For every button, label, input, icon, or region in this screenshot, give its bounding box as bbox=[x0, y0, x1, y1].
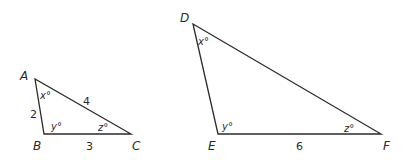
side-length-ab: 2 bbox=[30, 108, 37, 121]
triangle-abc: A B C x° y° z° 2 4 3 bbox=[19, 69, 141, 153]
angle-label-a: x° bbox=[39, 90, 51, 101]
vertex-label-e: E bbox=[208, 139, 216, 153]
angle-label-b: y° bbox=[50, 121, 62, 132]
vertex-label-b: B bbox=[33, 139, 41, 153]
diagram: A B C x° y° z° 2 4 3 D E F x° y° z° 6 bbox=[0, 0, 412, 160]
triangle-def-outline bbox=[193, 24, 381, 134]
angle-label-f: z° bbox=[343, 123, 354, 134]
triangle-def: D E F x° y° z° 6 bbox=[180, 11, 391, 153]
vertex-label-f: F bbox=[383, 139, 391, 153]
vertex-label-d: D bbox=[180, 11, 189, 25]
angle-label-e: y° bbox=[221, 121, 233, 132]
vertex-label-a: A bbox=[19, 69, 28, 83]
side-length-ac: 4 bbox=[83, 95, 90, 108]
angle-label-d: x° bbox=[197, 36, 209, 47]
angle-label-c: z° bbox=[97, 122, 108, 133]
vertex-label-c: C bbox=[132, 139, 141, 153]
side-length-ef: 6 bbox=[296, 140, 303, 153]
side-length-bc: 3 bbox=[86, 140, 93, 153]
